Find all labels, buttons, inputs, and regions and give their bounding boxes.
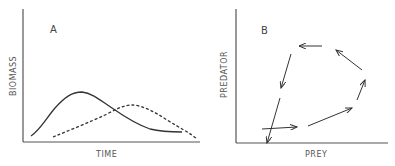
- panel-b-ylabel: PREDATOR: [220, 51, 229, 98]
- arrow-7: [267, 98, 280, 143]
- panel-a: A TIME BIOMASS: [9, 9, 200, 159]
- arrow-1: [262, 127, 297, 129]
- panel-b-label: B: [261, 25, 268, 36]
- solid-curve: [31, 92, 182, 136]
- trajectory-arrows: [262, 46, 365, 143]
- panel-b: B PREY PREDATOR: [220, 9, 388, 159]
- figure-canvas: A TIME BIOMASS B PREY PREDATOR: [0, 0, 395, 166]
- arrow-3: [357, 80, 365, 100]
- arrow-6: [281, 54, 291, 88]
- panel-a-ylabel: BIOMASS: [9, 56, 18, 96]
- arrow-2: [308, 108, 352, 126]
- dashed-curve: [53, 105, 197, 139]
- arrow-4: [336, 50, 362, 70]
- panel-b-xlabel: PREY: [305, 150, 327, 159]
- panel-a-xlabel: TIME: [95, 150, 117, 159]
- panel-a-label: A: [50, 24, 57, 35]
